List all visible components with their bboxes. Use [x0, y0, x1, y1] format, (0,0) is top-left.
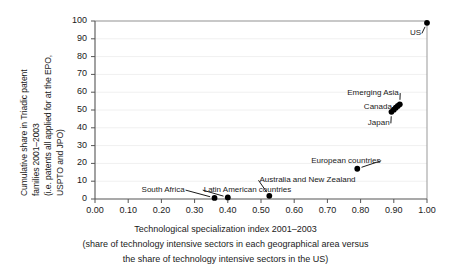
- annotation-canada: Canada: [364, 102, 392, 111]
- x-axis-ticks: [95, 199, 427, 203]
- y-tick-label: 60: [61, 86, 87, 96]
- annotation-european-countries: European countries: [311, 156, 380, 165]
- y-tick-label: 0: [61, 193, 87, 203]
- x-tick-label: 0.80: [344, 205, 378, 215]
- x-tick-label: 0.70: [310, 205, 344, 215]
- x-tick-label: 0.30: [178, 205, 212, 215]
- x-tick-label: 0.00: [78, 205, 112, 215]
- y-tick-label: 40: [61, 122, 87, 132]
- annotation-japan: Japan: [368, 118, 390, 127]
- y-tick-label: 80: [61, 51, 87, 61]
- y-tick-label: 70: [61, 68, 87, 78]
- annotation-south-africa: South Africa: [142, 185, 185, 194]
- annotation-australia-and-new-zealand: Australia and New Zealand: [259, 175, 355, 184]
- y-tick-label: 50: [61, 104, 87, 114]
- y-tick-label: 100: [61, 15, 87, 25]
- x-axis-sublabel-line2: the share of technology intensive sector…: [0, 254, 451, 264]
- x-tick-label: 0.90: [377, 205, 411, 215]
- chart-figure: Cumulative share in Triadic patent famil…: [0, 0, 451, 274]
- x-tick-label: 0.40: [211, 205, 245, 215]
- x-axis-sublabel-line1: (share of technology intensive sectors i…: [0, 239, 451, 249]
- x-tick-label: 0.60: [277, 205, 311, 215]
- x-axis-label: Technological specialization index 2001–…: [0, 224, 451, 234]
- y-axis-ticks: [91, 21, 95, 199]
- y-tick-label: 10: [61, 175, 87, 185]
- y-tick-label: 30: [61, 140, 87, 150]
- x-tick-label: 0.20: [144, 205, 178, 215]
- y-tick-label: 90: [61, 33, 87, 43]
- annotation-us: US: [410, 28, 421, 37]
- y-tick-label: 20: [61, 157, 87, 167]
- x-tick-label: 0.50: [244, 205, 278, 215]
- annotation-latin-american-countries: Latin American countries: [204, 185, 292, 194]
- annotation-emerging-asia: Emerging Asia: [347, 88, 399, 97]
- x-tick-label: 0.10: [111, 205, 145, 215]
- x-tick-label: 1.00: [410, 205, 444, 215]
